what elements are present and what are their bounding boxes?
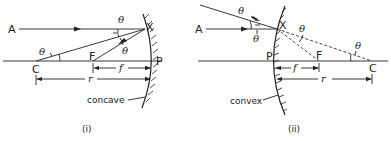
angle-arc xyxy=(351,54,352,61)
focal-length-label: f xyxy=(118,62,125,73)
point-f-label: F xyxy=(316,49,322,62)
figure-concave: A X C F P θ θ θ f r concave (i) xyxy=(3,14,163,134)
mirror-type-label: concave xyxy=(87,95,125,105)
arrow-icon xyxy=(74,27,81,32)
theta-label: θ xyxy=(355,40,361,51)
angle-arc xyxy=(59,54,60,61)
theta-label: θ xyxy=(118,14,124,25)
point-x-label: X xyxy=(146,21,154,34)
mirror-type-label: convex xyxy=(230,96,263,106)
mirror-reflection-diagram: A X C F P θ θ θ f r concave (i) xyxy=(0,0,391,141)
theta-label: θ xyxy=(299,23,305,34)
figure-convex: A X P F C θ θ θ θ f r convex (ii) xyxy=(195,5,388,134)
virtual-ray xyxy=(277,29,319,61)
figure-caption: (i) xyxy=(82,124,92,134)
reflected-ray xyxy=(93,29,145,61)
point-a-label: A xyxy=(195,23,203,36)
theta-label: θ xyxy=(39,46,45,57)
point-p-label: P xyxy=(156,55,163,68)
angle-arc xyxy=(118,29,119,37)
theta-label: θ xyxy=(253,33,259,44)
radius-label: r xyxy=(321,73,327,84)
focal-length-label: f xyxy=(292,62,299,73)
point-a-label: A xyxy=(8,23,16,36)
radius-label: r xyxy=(88,73,94,84)
point-c-label: C xyxy=(32,63,40,76)
point-f-label: F xyxy=(89,50,95,63)
point-x-label: X xyxy=(279,19,287,32)
theta-label: θ xyxy=(122,45,128,56)
angle-arc xyxy=(250,21,251,29)
figure-caption: (ii) xyxy=(288,124,300,134)
angle-arc xyxy=(299,35,303,42)
point-p-label: P xyxy=(266,50,273,63)
point-c-label: C xyxy=(369,62,377,75)
theta-label: θ xyxy=(238,5,244,16)
arrow-icon xyxy=(241,27,248,32)
